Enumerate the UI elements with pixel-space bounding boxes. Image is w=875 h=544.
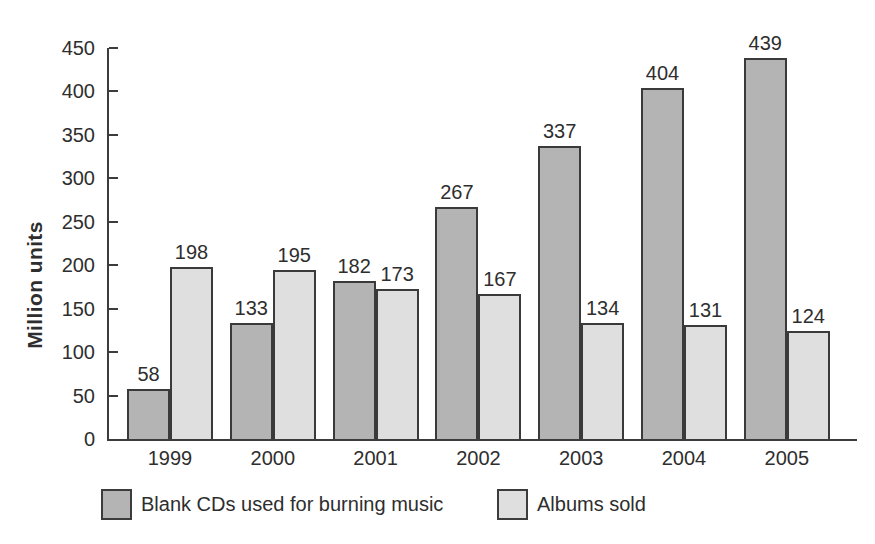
bar-value-label: 173: [362, 262, 432, 286]
y-tick-mark: [109, 351, 118, 353]
y-tick-label: 400: [25, 79, 95, 103]
y-tick-label: 350: [25, 123, 95, 147]
bar-albums-sold-2005: [787, 331, 830, 439]
bar-blank-cds-1999: [127, 389, 170, 439]
bar-value-label: 198: [157, 240, 227, 264]
y-tick-label: 300: [25, 166, 95, 190]
bar-value-label: 439: [730, 31, 800, 55]
bar-value-label: 131: [671, 298, 741, 322]
bar-blank-cds-2000: [230, 323, 273, 439]
y-tick-label: 250: [25, 210, 95, 234]
y-tick-label: 150: [25, 297, 95, 321]
x-axis-label: 2002: [433, 447, 523, 470]
bar-value-label: 267: [422, 180, 492, 204]
legend-swatch-albums-sold: [497, 489, 528, 520]
bar-value-label: 337: [525, 119, 595, 143]
y-tick-mark: [109, 395, 118, 397]
y-tick-mark: [109, 308, 118, 310]
y-tick-label: 200: [25, 253, 95, 277]
y-tick-mark: [109, 47, 118, 49]
x-axis-label: 2003: [536, 447, 626, 470]
bar-albums-sold-2001: [376, 289, 419, 439]
legend-swatch-blank-cds: [101, 489, 132, 520]
bar-blank-cds-2001: [333, 281, 376, 439]
bar-albums-sold-2000: [273, 270, 316, 439]
y-tick-label: 50: [25, 384, 95, 408]
bar-blank-cds-2005: [744, 58, 787, 439]
x-axis-label: 2000: [228, 447, 318, 470]
y-axis-title: Million units: [23, 221, 47, 349]
y-tick-mark: [109, 90, 118, 92]
bar-chart: Million units 05010015020025030035040045…: [0, 0, 875, 544]
legend-label-blank-cds: Blank CDs used for burning music: [141, 489, 443, 520]
bar-albums-sold-2004: [684, 325, 727, 439]
bar-blank-cds-2002: [435, 207, 478, 439]
y-tick-label: 0: [25, 427, 95, 451]
y-tick-mark: [109, 177, 118, 179]
bar-value-label: 404: [628, 61, 698, 85]
y-tick-label: 100: [25, 340, 95, 364]
x-axis-label: 2005: [742, 447, 832, 470]
y-tick-label: 450: [25, 36, 95, 60]
bar-value-label: 124: [773, 304, 843, 328]
bar-value-label: 167: [465, 267, 535, 291]
y-tick-mark: [109, 264, 118, 266]
x-axis-label: 1999: [125, 447, 215, 470]
bar-value-label: 134: [568, 296, 638, 320]
bar-blank-cds-2003: [538, 146, 581, 439]
x-axis-label: 2001: [331, 447, 421, 470]
y-tick-mark: [109, 134, 118, 136]
bar-albums-sold-2002: [478, 294, 521, 439]
y-tick-mark: [109, 221, 118, 223]
bar-albums-sold-2003: [581, 323, 624, 439]
bar-albums-sold-1999: [170, 267, 213, 439]
legend-label-albums-sold: Albums sold: [537, 489, 646, 520]
x-axis-label: 2004: [639, 447, 729, 470]
bar-blank-cds-2004: [641, 88, 684, 439]
